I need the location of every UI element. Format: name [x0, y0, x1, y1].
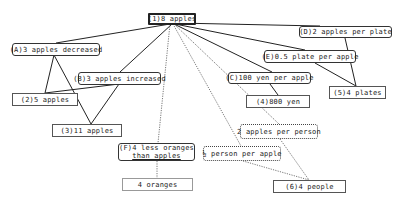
node-4-plates: (5)4 plates	[329, 86, 386, 99]
edge-B-to-2	[45, 84, 119, 93]
node-100-yen-per-apple: (C)100 yen per apple	[228, 72, 311, 84]
edge-1-to-C	[174, 24, 272, 72]
node-11-apples: (3)11 apples	[52, 124, 122, 137]
node-4-oranges: 4 oranges	[122, 178, 193, 191]
concept-diagram: (1)8 apples (A)3 apples decreased (B)3 a…	[0, 0, 401, 203]
edge-C-to-4	[270, 84, 278, 95]
edge-B-to-3	[91, 84, 119, 124]
edge-1-to-E	[175, 24, 305, 50]
node-4-less-oranges-line1: (F)4 less oranges	[119, 144, 194, 152]
node-half-plate-per-apple: (E)0.5 plate per apple	[264, 50, 356, 63]
edge-person-to-6	[280, 139, 309, 180]
node-800-yen: (4)800 yen	[246, 95, 310, 108]
node-4-people: (6)4 people	[273, 180, 346, 193]
node-4-less-oranges-line2: than apples	[132, 152, 181, 160]
edge-A-to-2	[45, 55, 54, 93]
node-half-person-per-apple: ½ person per apple	[203, 146, 281, 161]
node-4-less-oranges: (F)4 less oranges than apples	[118, 143, 195, 161]
edge-1-to-D	[176, 23, 320, 26]
node-3-apples-increased: (B)3 apples increased	[78, 72, 161, 85]
edge-half-to-6	[243, 161, 309, 180]
node-8-apples: (1)8 apples	[148, 13, 196, 25]
node-5-apples: (2)5 apples	[12, 93, 78, 106]
node-3-apples-decreased: (A)3 apples decreased	[12, 43, 100, 56]
edge-1-to-half	[173, 24, 241, 146]
edge-1-to-A	[56, 24, 170, 43]
node-2-apples-per-person: 2 apples per person	[240, 124, 318, 139]
edge-E-to-5	[315, 63, 356, 86]
node-2-apples-per-plate: (D)2 apples per plate	[299, 26, 392, 38]
